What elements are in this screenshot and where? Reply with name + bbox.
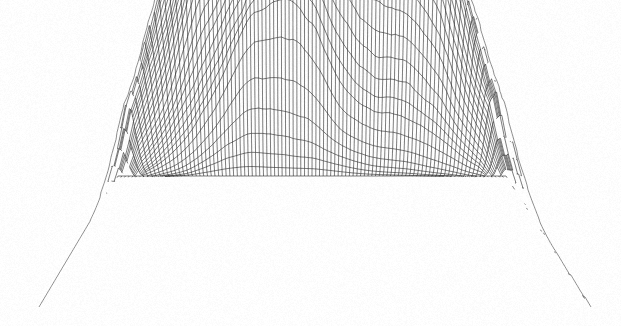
wireframe-terrain-canvas bbox=[0, 0, 621, 326]
terrain-surface-figure bbox=[0, 0, 621, 326]
